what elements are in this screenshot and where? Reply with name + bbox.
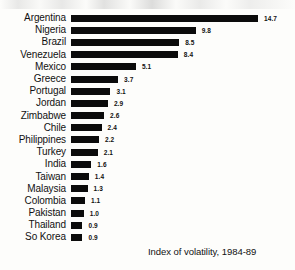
bar — [71, 149, 98, 156]
bar-value-label: 3.7 — [124, 76, 133, 83]
bar-category-label: Chile — [0, 123, 71, 133]
bar-category-label: Mexico — [0, 62, 71, 72]
bar-track: 1.0 — [71, 207, 295, 219]
bar-row: Venezuela8.4 — [0, 49, 295, 61]
bar-track: 2.2 — [71, 134, 295, 146]
chart-caption: Index of volatility, 1984-89 — [148, 246, 256, 257]
bar-row: Portugal3.1 — [0, 85, 295, 97]
bar-value-label: 2.2 — [105, 136, 114, 143]
bar-value-label: 1.3 — [94, 185, 103, 192]
bar — [71, 15, 258, 22]
bar-row: Taiwan1.4 — [0, 170, 295, 182]
bar-category-label: Venezuela — [0, 50, 71, 60]
bar — [71, 76, 118, 83]
bar-category-label: Nigeria — [0, 25, 71, 35]
bar-row: Philippines2.2 — [0, 134, 295, 146]
bar-track: 5.1 — [71, 61, 295, 73]
bar — [71, 210, 84, 217]
bar-track: 2.9 — [71, 97, 295, 109]
bar-track: 14.7 — [71, 12, 295, 24]
bar-category-label: Argentina — [0, 13, 71, 23]
bar-track: 8.4 — [71, 49, 295, 61]
bar-value-label: 0.9 — [88, 234, 97, 241]
bar-value-label: 2.6 — [110, 112, 119, 119]
bar-track: 1.4 — [71, 170, 295, 182]
bar-row: Turkey2.1 — [0, 146, 295, 158]
bar — [71, 100, 108, 107]
bar-value-label: 8.5 — [185, 39, 194, 46]
bar-category-label: Zimbabwe — [0, 111, 71, 121]
bar-category-label: India — [0, 159, 71, 169]
bar-value-label: 1.6 — [97, 161, 106, 168]
bar-category-label: Pakistan — [0, 208, 71, 218]
bar-value-label: 3.1 — [116, 88, 125, 95]
bar-track: 2.1 — [71, 146, 295, 158]
bar-category-label: Philippines — [0, 135, 71, 145]
bar-category-label: Thailand — [0, 220, 71, 230]
bar — [71, 88, 110, 95]
bar — [71, 136, 99, 143]
bar-value-label: 2.4 — [108, 124, 117, 131]
bar-category-label: Jordan — [0, 98, 71, 108]
bar-value-label: 2.9 — [114, 100, 123, 107]
bar-value-label: 2.1 — [104, 149, 113, 156]
bar-track: 1.6 — [71, 158, 295, 170]
bar-row: Thailand0.9 — [0, 219, 295, 231]
bar-row: Jordan2.9 — [0, 97, 295, 109]
bar-track: 0.9 — [71, 219, 295, 231]
bar — [71, 124, 102, 131]
bar-category-label: Colombia — [0, 196, 71, 206]
bar-row: Brazil8.5 — [0, 36, 295, 48]
bar — [71, 27, 196, 34]
bar-row: Zimbabwe2.6 — [0, 110, 295, 122]
bar-value-label: 1.0 — [90, 210, 99, 217]
bar-value-label: 5.1 — [142, 63, 151, 70]
bar-value-label: 0.9 — [88, 222, 97, 229]
bar — [71, 112, 104, 119]
bar-category-label: Taiwan — [0, 172, 71, 182]
bar-row: Chile2.4 — [0, 122, 295, 134]
bar-rows-container: Argentina14.7Nigeria9.8Brazil8.5Venezuel… — [0, 12, 295, 244]
volatility-bar-chart: Argentina14.7Nigeria9.8Brazil8.5Venezuel… — [0, 0, 295, 270]
bar-row: Pakistan1.0 — [0, 207, 295, 219]
bar-value-label: 1.4 — [95, 173, 104, 180]
bar-track: 3.7 — [71, 73, 295, 85]
bar — [71, 161, 91, 168]
bar-row: Malaysia1.3 — [0, 183, 295, 195]
bar-row: So Korea0.9 — [0, 231, 295, 243]
bar-row: Greece3.7 — [0, 73, 295, 85]
bar-category-label: So Korea — [0, 232, 71, 242]
bar — [71, 63, 136, 70]
bar-track: 8.5 — [71, 36, 295, 48]
bar-row: Mexico5.1 — [0, 61, 295, 73]
bar-value-label: 1.1 — [91, 197, 100, 204]
bar-row: India1.6 — [0, 158, 295, 170]
bar — [71, 173, 89, 180]
bar-category-label: Turkey — [0, 147, 71, 157]
bar-track: 3.1 — [71, 85, 295, 97]
bar — [71, 185, 88, 192]
bar-category-label: Portugal — [0, 86, 71, 96]
bar — [71, 234, 82, 241]
bar-row: Argentina14.7 — [0, 12, 295, 24]
bar — [71, 39, 179, 46]
bar — [71, 197, 85, 204]
bar-row: Nigeria9.8 — [0, 24, 295, 36]
bar-value-label: 8.4 — [184, 51, 193, 58]
bar-category-label: Malaysia — [0, 184, 71, 194]
bar-track: 1.3 — [71, 183, 295, 195]
bar-track: 1.1 — [71, 195, 295, 207]
bar-track: 2.4 — [71, 122, 295, 134]
bar — [71, 51, 178, 58]
scan-artifact-strip — [0, 0, 295, 9]
bar-track: 2.6 — [71, 110, 295, 122]
bar-value-label: 14.7 — [264, 15, 277, 22]
bar — [71, 222, 82, 229]
bar-value-label: 9.8 — [202, 27, 211, 34]
bar-category-label: Brazil — [0, 37, 71, 47]
bar-track: 9.8 — [71, 24, 295, 36]
bar-track: 0.9 — [71, 231, 295, 243]
bar-row: Colombia1.1 — [0, 195, 295, 207]
bar-category-label: Greece — [0, 74, 71, 84]
